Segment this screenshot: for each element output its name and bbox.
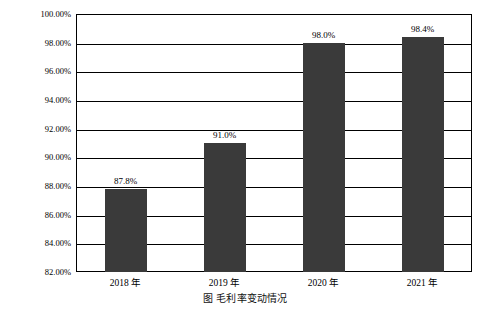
bar-value-label: 98.0% bbox=[312, 30, 335, 40]
y-axis-tick-label: 92.00% bbox=[45, 124, 71, 134]
bar-series: 87.8%91.0%98.0%98.4% bbox=[76, 14, 472, 272]
y-axis-tick-label: 86.00% bbox=[45, 210, 71, 220]
y-axis: 82.00%84.00%86.00%88.00%90.00%92.00%94.0… bbox=[0, 0, 76, 290]
y-axis-tick-label: 90.00% bbox=[45, 152, 71, 162]
y-axis-tick-label: 94.00% bbox=[45, 95, 71, 105]
bar-slot: 91.0% bbox=[175, 14, 274, 272]
y-axis-tick-label: 84.00% bbox=[45, 238, 71, 248]
bar-value-label: 91.0% bbox=[213, 130, 236, 140]
y-axis-tick-label: 100.00% bbox=[41, 9, 71, 19]
bar-slot: 98.4% bbox=[373, 14, 472, 272]
bar-value-label: 87.8% bbox=[114, 176, 137, 186]
bar-value-label: 98.4% bbox=[411, 24, 434, 34]
y-axis-tick-label: 98.00% bbox=[45, 38, 71, 48]
bar-slot: 87.8% bbox=[76, 14, 175, 272]
bar bbox=[204, 143, 246, 272]
bar bbox=[303, 43, 345, 272]
x-axis-tick-label: 2020 年 bbox=[274, 276, 373, 290]
x-axis-tick-label: 2021 年 bbox=[373, 276, 472, 290]
y-axis-tick-label: 82.00% bbox=[45, 267, 71, 277]
bar-slot: 98.0% bbox=[274, 14, 373, 272]
bar bbox=[402, 37, 444, 272]
x-axis-tick-label: 2018 年 bbox=[76, 276, 175, 290]
chart-page: 82.00%84.00%86.00%88.00%90.00%92.00%94.0… bbox=[0, 0, 491, 309]
figure-caption: 图 毛利率变动情况 bbox=[0, 292, 491, 306]
y-axis-tick-label: 96.00% bbox=[45, 66, 71, 76]
y-axis-tick-label: 88.00% bbox=[45, 181, 71, 191]
x-axis: 2018 年2019 年2020 年2021 年 bbox=[76, 276, 472, 292]
x-axis-tick-label: 2019 年 bbox=[175, 276, 274, 290]
bar bbox=[105, 189, 147, 272]
